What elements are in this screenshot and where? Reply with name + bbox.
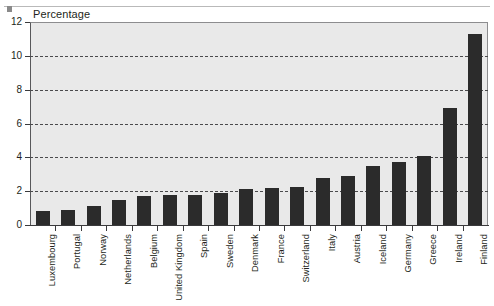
bar — [341, 176, 355, 225]
y-axis-tick-label: 10 — [0, 51, 22, 61]
bar — [265, 188, 279, 225]
x-axis-category-label: Spain — [199, 234, 209, 258]
x-axis-category-label: France — [276, 234, 286, 263]
x-axis-tick — [259, 226, 260, 231]
bar-chart-figure: Percentage 024681012 LuxembourgPortugalN… — [0, 0, 494, 306]
bar-slot — [157, 22, 182, 225]
x-axis-category-label: Sweden — [225, 234, 235, 268]
bar — [61, 210, 75, 225]
bar-slot — [208, 22, 233, 225]
x-axis-category-label: Ireland — [454, 234, 464, 263]
x-axis-category-label: Iceland — [378, 234, 388, 264]
x-axis-tick — [361, 226, 362, 231]
bar — [163, 195, 177, 225]
top-divider-rule — [4, 6, 490, 7]
x-axis-tick — [463, 226, 464, 231]
bar — [443, 108, 457, 225]
x-axis-category-label: Belgium — [149, 234, 159, 268]
x-axis-tick — [234, 226, 235, 231]
bar — [214, 193, 228, 225]
bar-slot — [30, 22, 55, 225]
bar-slot — [132, 22, 157, 225]
y-axis-tick-label: 12 — [0, 17, 22, 27]
bar — [417, 156, 431, 225]
bar — [188, 195, 202, 225]
x-axis-tick — [284, 226, 285, 231]
bar — [112, 200, 126, 225]
y-axis-tick-label: 6 — [0, 119, 22, 129]
bar-slot — [361, 22, 386, 225]
x-axis-category-label: Luxembourg — [47, 234, 57, 286]
x-axis-tick — [335, 226, 336, 231]
x-axis-tick — [81, 226, 82, 231]
x-axis-category-label: Denmark — [250, 234, 260, 272]
bar-slot — [335, 22, 360, 225]
bar-slot — [437, 22, 462, 225]
bar-slot — [463, 22, 488, 225]
bar-slot — [259, 22, 284, 225]
bar — [137, 196, 151, 225]
x-axis-tick — [386, 226, 387, 231]
x-axis-category-label: Portugal — [72, 234, 82, 269]
bar — [290, 187, 304, 225]
x-axis-tick — [310, 226, 311, 231]
x-axis-tick — [437, 226, 438, 231]
top-rule-tick — [7, 6, 12, 12]
bar — [87, 206, 101, 225]
y-axis-tick-label: 0 — [0, 220, 22, 230]
y-axis-title: Percentage — [33, 8, 90, 20]
bar-slot — [310, 22, 335, 225]
bar-slot — [183, 22, 208, 225]
x-axis-tick — [106, 226, 107, 231]
x-axis-tick — [157, 226, 158, 231]
bar — [392, 162, 406, 225]
bar-slot — [55, 22, 80, 225]
x-axis-tick — [55, 226, 56, 231]
bar-slot — [234, 22, 259, 225]
bar-slot — [284, 22, 309, 225]
bar-series — [30, 22, 488, 225]
bar-slot — [386, 22, 411, 225]
bar — [316, 178, 330, 225]
bar-slot — [106, 22, 131, 225]
y-axis-tick-label: 8 — [0, 85, 22, 95]
bar-slot — [412, 22, 437, 225]
bar — [36, 211, 50, 225]
x-axis-category-label: Switzerland — [301, 234, 311, 283]
y-axis-tick-label: 4 — [0, 152, 22, 162]
x-axis-category-label: Greece — [428, 234, 438, 265]
bar — [468, 34, 482, 225]
x-axis-tick — [183, 226, 184, 231]
x-axis-tick — [208, 226, 209, 231]
y-axis-tick-label: 2 — [0, 186, 22, 196]
bar-slot — [81, 22, 106, 225]
x-axis-category-label: Norway — [98, 234, 108, 266]
x-axis-category-label: Austria — [352, 234, 362, 263]
x-axis-category-label: Netherlands — [123, 234, 133, 285]
bar — [366, 166, 380, 225]
x-axis-category-label: Finland — [479, 234, 489, 265]
x-axis-tick — [132, 226, 133, 231]
bar — [239, 189, 253, 225]
x-axis-category-label: Italy — [327, 234, 337, 251]
x-axis-category-label: United Kingdom — [174, 234, 184, 301]
x-axis-tick — [412, 226, 413, 231]
x-axis-category-label: Germany — [403, 234, 413, 273]
